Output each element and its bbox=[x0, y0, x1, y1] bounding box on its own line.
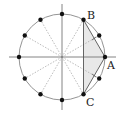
label-b: B bbox=[87, 9, 95, 22]
circle-diagram: B A C bbox=[0, 0, 121, 114]
axes bbox=[9, 4, 116, 110]
label-c: C bbox=[86, 96, 94, 109]
label-a: A bbox=[106, 59, 116, 72]
